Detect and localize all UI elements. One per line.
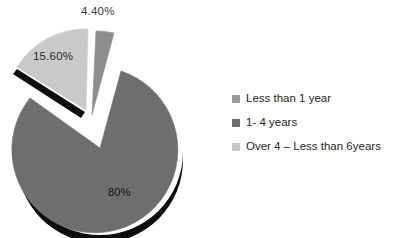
legend-label: Less than 1 year bbox=[246, 92, 331, 105]
data-label-less-than-one-year: 4.40% bbox=[81, 5, 115, 17]
chart-legend: Less than 1 year 1- 4 years Over 4 – Les… bbox=[232, 88, 404, 160]
legend-item-less-than-1-year[interactable]: Less than 1 year bbox=[232, 88, 404, 109]
legend-label: Over 4 – Less than 6years bbox=[246, 140, 381, 153]
legend-swatch-icon bbox=[232, 95, 240, 103]
legend-item-over-4-less-than-6-years[interactable]: Over 4 – Less than 6years bbox=[232, 136, 404, 157]
legend-swatch-icon bbox=[232, 119, 240, 127]
legend-swatch-icon bbox=[232, 143, 240, 151]
pie-plot-area: 4.40% 15.60% 80% bbox=[0, 0, 230, 238]
legend-item-1-4-years[interactable]: 1- 4 years bbox=[232, 112, 404, 133]
pie-chart-figure: 4.40% 15.60% 80% Less than 1 year 1- 4 y… bbox=[0, 0, 406, 238]
legend-label: 1- 4 years bbox=[246, 116, 297, 129]
pie-graphic bbox=[0, 0, 230, 238]
pie-slice-less-than-one-year bbox=[92, 31, 114, 115]
data-label-one-to-four-years: 80% bbox=[108, 186, 131, 198]
data-label-over-four-years: 15.60% bbox=[33, 50, 73, 62]
